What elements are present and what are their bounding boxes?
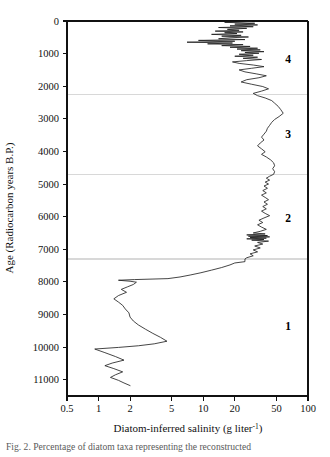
x-tick-label-20: 20 bbox=[230, 403, 241, 414]
salinity-curve bbox=[95, 21, 283, 385]
x-tick-label-0.5: 0.5 bbox=[60, 403, 73, 414]
y-tick-label-2000: 2000 bbox=[38, 81, 59, 92]
zone-label-4: 4 bbox=[285, 53, 291, 65]
salinity-curve-group bbox=[95, 21, 283, 385]
salinity-depth-plot: 0100020003000400050006000700080009000100… bbox=[0, 0, 330, 457]
x-tick-group: 0.5125102050100 bbox=[60, 396, 315, 414]
x-tick-label-2: 2 bbox=[127, 403, 132, 414]
y-tick-group: 0100020003000400050006000700080009000100… bbox=[33, 16, 67, 386]
zone-label-3: 3 bbox=[285, 128, 291, 140]
y-tick-label-11000: 11000 bbox=[33, 374, 59, 385]
figure-container: 0100020003000400050006000700080009000100… bbox=[0, 0, 330, 457]
y-tick-label-8000: 8000 bbox=[38, 276, 59, 287]
zone-label-1: 1 bbox=[285, 320, 291, 332]
y-tick-label-1000: 1000 bbox=[38, 48, 59, 59]
y-tick-label-7000: 7000 bbox=[38, 244, 59, 255]
y-tick-label-4000: 4000 bbox=[38, 146, 59, 157]
x-tick-label-5: 5 bbox=[169, 403, 174, 414]
y-tick-label-5000: 5000 bbox=[38, 179, 59, 190]
y-tick-label-0: 0 bbox=[54, 16, 59, 27]
y-tick-label-6000: 6000 bbox=[38, 211, 59, 222]
y-axis-title: Age (Radiocarbon years B.P.) bbox=[3, 142, 16, 273]
x-tick-label-10: 10 bbox=[198, 403, 209, 414]
x-tick-label-100: 100 bbox=[300, 403, 316, 414]
x-tick-label-50: 50 bbox=[271, 403, 282, 414]
zone-label-2: 2 bbox=[285, 212, 291, 224]
x-tick-label-1: 1 bbox=[96, 403, 101, 414]
y-tick-label-10000: 10000 bbox=[33, 342, 59, 353]
figure-caption: Fig. 2. Percentage of diatom taxa repres… bbox=[6, 441, 324, 452]
zone-divider-group bbox=[67, 94, 308, 259]
y-tick-label-9000: 9000 bbox=[38, 309, 59, 320]
y-tick-label-3000: 3000 bbox=[38, 113, 59, 124]
x-axis-title: Diatom-inferred salinity (g liter-1) bbox=[114, 422, 263, 435]
axis-frame bbox=[67, 21, 308, 396]
